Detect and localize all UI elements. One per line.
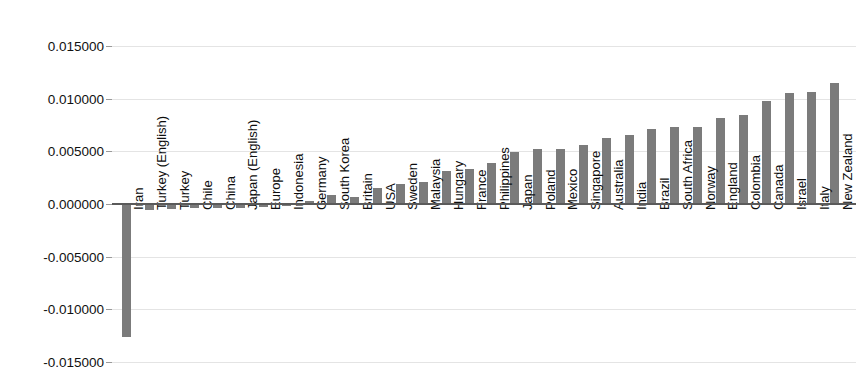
bar-chart: 0.0150000.0100000.0050000.000000-0.00500… bbox=[0, 0, 868, 390]
y-tick-label: -0.015000 bbox=[6, 355, 104, 370]
category-label: Japan (English) bbox=[245, 120, 260, 210]
category-label: Germany bbox=[314, 156, 329, 209]
gridline bbox=[112, 362, 856, 363]
category-label: Chile bbox=[200, 180, 215, 210]
bar bbox=[419, 182, 428, 204]
category-label: USA bbox=[383, 183, 398, 210]
category-label: Indonesia bbox=[291, 154, 306, 210]
category-label: Iran bbox=[131, 187, 146, 209]
category-label: South Africa bbox=[680, 140, 695, 210]
category-label: South Korea bbox=[337, 138, 352, 210]
category-label: Colombia bbox=[748, 155, 763, 210]
category-label: Singapore bbox=[588, 151, 603, 210]
y-tick-mark bbox=[106, 362, 112, 363]
y-tick-label: -0.005000 bbox=[6, 249, 104, 264]
category-label: New Zealand bbox=[840, 133, 855, 210]
category-label: Turkey (English) bbox=[154, 116, 169, 210]
y-tick-label: -0.010000 bbox=[6, 302, 104, 317]
category-label: India bbox=[634, 182, 649, 210]
x-axis-category-labels: IranTurkey (English)TurkeyChileChinaJapa… bbox=[0, 0, 868, 160]
zero-axis-line bbox=[112, 203, 856, 205]
category-label: Israel bbox=[794, 178, 809, 210]
bar bbox=[122, 204, 131, 337]
category-label: Italy bbox=[817, 186, 832, 210]
category-label: Philippines bbox=[497, 147, 512, 210]
y-tick-label: 0.000000 bbox=[6, 196, 104, 211]
category-label: Brazil bbox=[657, 177, 672, 210]
bar bbox=[442, 171, 451, 204]
